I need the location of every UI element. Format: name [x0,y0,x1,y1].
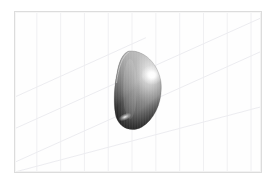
grid-diagonal-lines [15,18,261,172]
dome-surface [113,49,163,132]
dome-outline [114,51,161,130]
frame-inset-highlight [15,12,261,172]
render-viewport: 3D shaded dome render dome hemisphere Sm… [0,0,276,187]
grid-vertical-lines [37,12,251,172]
dome-object [113,49,163,132]
render-canvas[interactable] [14,11,262,173]
perspective-grid [15,12,261,172]
